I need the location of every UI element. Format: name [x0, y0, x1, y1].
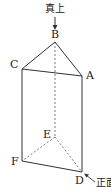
vertex-label-c: C: [10, 58, 18, 71]
edge-ab: [55, 42, 82, 76]
edge-ed: [55, 137, 82, 172]
vertex-label-e: E: [43, 128, 51, 141]
edge-ca: [22, 69, 82, 76]
vertex-label-b: B: [51, 28, 59, 41]
edge-fd: [22, 161, 82, 172]
front-view-arrow: [84, 174, 95, 183]
vertex-label-f: F: [11, 155, 19, 168]
vertex-label-a: A: [85, 69, 95, 82]
edge-bc: [22, 42, 55, 69]
vertex-label-d: D: [75, 174, 84, 187]
front-view-label: 正面: [96, 177, 111, 187]
top-view-label: 真上: [45, 2, 65, 14]
prism-diagram: 真上 正面 B C A E F D: [0, 0, 111, 187]
solid-edges: [22, 42, 82, 172]
